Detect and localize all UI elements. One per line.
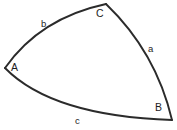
spherical-triangle-diagram: A B C a b c [0, 0, 177, 130]
vertex-label-a: A [11, 62, 18, 73]
triangle-drawing-canvas [0, 0, 177, 130]
arc-a-side [106, 4, 172, 120]
vertex-label-c: C [96, 8, 104, 19]
arc-c-side [5, 68, 172, 120]
side-label-b: b [41, 19, 46, 29]
side-label-a: a [148, 44, 153, 54]
side-label-c: c [75, 116, 80, 126]
arc-b-side [5, 4, 106, 68]
vertex-label-b: B [155, 102, 162, 113]
